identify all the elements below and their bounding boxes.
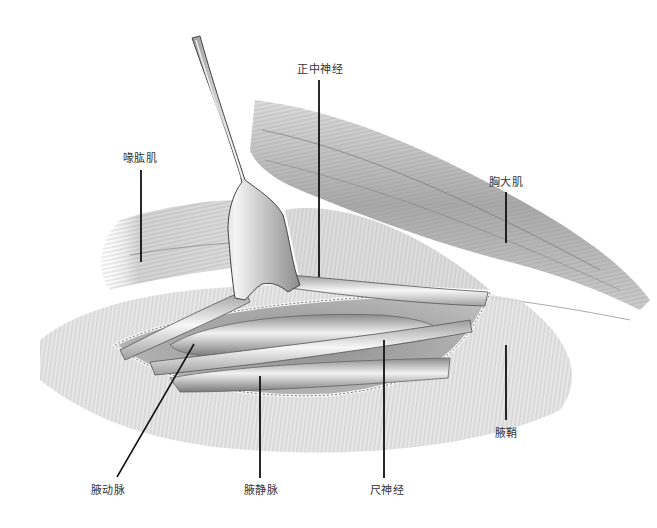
label-axillary-sheath: 腋鞘 (495, 428, 518, 439)
illustration-canvas (0, 0, 657, 528)
label-coracobrachialis: 喙肱肌 (123, 153, 158, 164)
label-median-nerve: 正中神经 (297, 64, 343, 75)
label-axillary-vein: 腋静脉 (244, 485, 279, 496)
label-pectoralis-major: 胸大肌 (489, 177, 524, 188)
anatomy-illustration: 正中神经 喙肱肌 胸大肌 腋鞘 腋动脉 腋静脉 尺神经 (0, 0, 657, 528)
coracobrachialis-muscle (101, 200, 250, 290)
label-ulnar-nerve: 尺神经 (370, 485, 405, 496)
label-axillary-artery: 腋动脉 (91, 485, 126, 496)
